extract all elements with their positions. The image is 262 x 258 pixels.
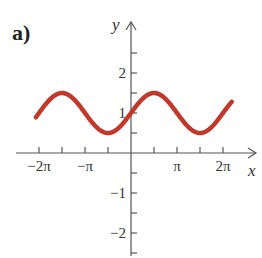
x-tick-label: −π [77,158,93,174]
panel-label: a) [12,20,30,45]
chart: a) −2π−ππ2π21−1−2 x y [0,0,262,258]
y-tick-label: −1 [110,185,126,201]
x-tick-label: 2π [215,158,231,174]
x-tick-label: π [173,158,181,174]
axes [16,22,256,256]
sine-curve [36,93,232,133]
y-tick-label: 2 [119,65,127,81]
y-axis-label: y [110,15,120,34]
y-tick-label: −2 [110,225,126,241]
x-tick-label: −2π [27,158,51,174]
x-axis-label: x [247,161,256,180]
